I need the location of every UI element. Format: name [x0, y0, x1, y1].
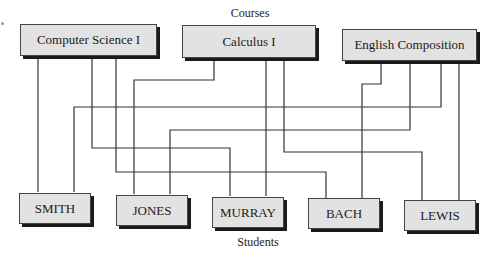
- connector-calc1-jones: [134, 58, 214, 194]
- course-label: Calculus I: [222, 34, 275, 50]
- student-label: JONES: [132, 203, 171, 219]
- connector-cs1-murray: [92, 56, 230, 196]
- students-heading: Students: [218, 235, 298, 250]
- student-label: MURRAY: [220, 205, 276, 221]
- student-label: LEWIS: [420, 208, 460, 224]
- student-box-jones: JONES: [116, 195, 188, 226]
- student-box-bach: BACH: [308, 198, 380, 229]
- student-label: BACH: [326, 206, 362, 222]
- course-label: English Composition: [354, 37, 464, 53]
- student-box-lewis: LEWIS: [404, 200, 476, 231]
- student-box-smith: SMITH: [19, 193, 91, 224]
- student-box-murray: MURRAY: [212, 197, 284, 228]
- course-box-calculus-i: Calculus I: [182, 25, 316, 58]
- student-label: SMITH: [35, 201, 75, 217]
- course-label: Computer Science I: [37, 32, 140, 48]
- connector-eng-bach: [362, 60, 381, 198]
- connector-cs1-bach: [116, 56, 326, 198]
- connector-calc1-lewis: [284, 58, 422, 200]
- course-box-computer-science-i: Computer Science I: [20, 24, 157, 56]
- course-box-english-composition: English Composition: [342, 29, 477, 61]
